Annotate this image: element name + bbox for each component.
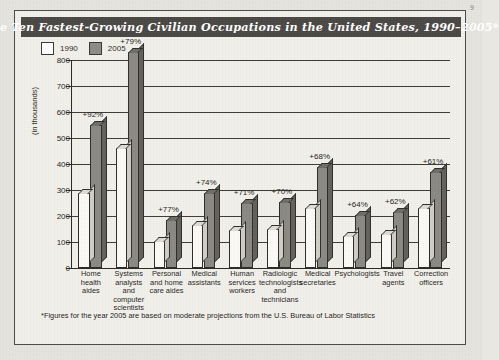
- y-axis-tickmark-200: [66, 216, 72, 217]
- x-axis-category-labels: HomehealthaidesSystemsanalystsandcompute…: [72, 270, 450, 348]
- x-axis-label-line: aides: [70, 287, 112, 296]
- bar-side-face: [90, 184, 95, 262]
- y-axis-tickmark-700: [66, 86, 72, 87]
- x-axis-label-line: Psychologists: [335, 270, 377, 279]
- y-axis-tickmark-100: [66, 242, 72, 243]
- chart-title-bar: The Ten Fastest-Growing Civilian Occupat…: [21, 17, 461, 37]
- y-axis-tickmark-0: [66, 268, 72, 269]
- bar-side-face: [328, 158, 333, 262]
- growth-label-1: +92%: [83, 110, 104, 119]
- growth-label-8: +64%: [347, 200, 368, 209]
- bar-side-face: [102, 116, 107, 262]
- x-axis-label-line: technicians: [259, 296, 301, 305]
- y-axis-tickmark-800: [66, 60, 72, 61]
- bar-1990-10: [418, 208, 430, 268]
- bar-side-face: [291, 193, 296, 262]
- bar-side-face: [366, 206, 371, 262]
- growth-label-6: +70%: [272, 187, 293, 196]
- chart-footnote: *Figures for the year 2005 are based on …: [41, 311, 441, 321]
- x-axis-label-6: Radiologictechnologistsandtechnicians: [259, 270, 301, 304]
- bar-front-face: [344, 237, 354, 268]
- x-axis-label-line: officers: [410, 279, 452, 288]
- growth-label-4: +74%: [196, 178, 217, 187]
- x-axis-label-line: assistants: [183, 279, 225, 288]
- x-axis-label-10: Correctionofficers: [410, 270, 452, 287]
- bar-front-face: [419, 209, 429, 267]
- x-axis-label-line: care aides: [146, 287, 188, 296]
- growth-label-5: +71%: [234, 188, 255, 197]
- bar-side-face: [139, 43, 144, 262]
- bar-front-face: [79, 194, 89, 267]
- x-axis-label-2: Systemsanalystsandcomputerscientists: [108, 270, 150, 313]
- legend-swatch-2005-icon: [89, 42, 102, 55]
- bar-front-face: [268, 230, 278, 267]
- bar-side-face: [316, 199, 321, 262]
- x-axis-label-8: Psychologists: [335, 270, 377, 279]
- bar-side-face: [177, 211, 182, 262]
- growth-label-2: +79%: [120, 37, 141, 46]
- bar-front-face: [306, 209, 316, 267]
- x-axis-label-line: secretaries: [297, 279, 339, 288]
- growth-label-3: +77%: [158, 205, 179, 214]
- x-axis-label-9: Travelagents: [372, 270, 414, 287]
- y-axis-tickmark-600: [66, 112, 72, 113]
- bar-side-face: [442, 163, 447, 262]
- legend-item-1990: 1990: [41, 42, 78, 55]
- x-axis-label-3: Personaland homecare aides: [146, 270, 188, 296]
- x-axis-label-1: Homehealthaides: [70, 270, 112, 296]
- bar-front-face: [117, 149, 127, 267]
- bar-front-face: [193, 226, 203, 267]
- growth-label-10: +61%: [423, 157, 444, 166]
- page-corner-mark: 9: [470, 4, 474, 11]
- chart-legend: 1990 2005: [41, 42, 126, 55]
- x-axis-label-7: Medicalsecretaries: [297, 270, 339, 287]
- page-title: The Ten Fastest-Growing Civilian Occupat…: [0, 20, 499, 34]
- y-axis-tickmark-500: [66, 138, 72, 139]
- bar-1990-6: [267, 229, 279, 268]
- bar-1990-7: [305, 208, 317, 268]
- bar-series-layer: +92%+79%+77%+74%+71%+70%+68%+64%+62%+61%: [72, 60, 450, 268]
- x-axis-label-4: Medicalassistants: [183, 270, 225, 287]
- bar-1990-5: [229, 230, 241, 268]
- x-axis-label-5: Humanservicesworkers: [221, 270, 263, 296]
- bar-1990-9: [381, 234, 393, 268]
- growth-label-7: +68%: [309, 152, 330, 161]
- bar-1990-8: [343, 236, 355, 269]
- bar-side-face: [127, 139, 132, 262]
- legend-label-1990: 1990: [60, 44, 78, 53]
- bar-side-face: [253, 194, 258, 262]
- x-axis-label-line: agents: [372, 279, 414, 288]
- bar-1990-3: [154, 241, 166, 268]
- bar-front-face: [382, 235, 392, 267]
- x-axis-label-line: workers: [221, 287, 263, 296]
- bar-side-face: [215, 184, 220, 262]
- y-axis-tickmark-300: [66, 190, 72, 191]
- growth-label-9: +62%: [385, 197, 406, 206]
- bar-front-face: [230, 231, 240, 267]
- plot-area: (in thousands) 0100200300400500600700800…: [32, 60, 450, 300]
- bar-1990-4: [192, 225, 204, 268]
- bar-1990-2: [116, 148, 128, 268]
- bar-side-face: [404, 203, 409, 262]
- y-axis-title: (in thousands): [30, 66, 39, 156]
- bar-1990-1: [78, 193, 90, 268]
- legend-swatch-1990-icon: [41, 42, 54, 55]
- bar-side-face: [430, 199, 435, 262]
- bar-front-face: [155, 242, 165, 267]
- chart-card: The Ten Fastest-Growing Civilian Occupat…: [14, 10, 466, 345]
- y-axis-tickmark-400: [66, 164, 72, 165]
